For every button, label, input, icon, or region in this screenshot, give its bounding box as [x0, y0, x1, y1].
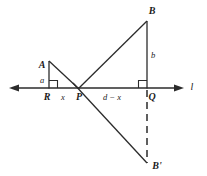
- triangle-BQP: [79, 21, 148, 89]
- axis-line-l-group: [9, 84, 184, 91]
- label-line-l: l: [191, 82, 194, 92]
- label-point-P: P: [76, 92, 82, 102]
- left-arrowhead-icon: [9, 84, 19, 91]
- label-point-B-prime: B': [152, 161, 161, 171]
- label-point-B: B: [149, 6, 156, 16]
- label-point-Q: Q: [148, 92, 155, 102]
- right-angle-at-Q-icon: [139, 81, 148, 89]
- label-segment-b: b: [151, 51, 155, 60]
- label-point-R: R: [44, 92, 51, 102]
- right-arrowhead-icon: [174, 84, 184, 91]
- label-segment-x: x: [61, 93, 65, 102]
- label-point-A: A: [39, 60, 46, 70]
- label-segment-d-minus-x: d − x: [103, 93, 121, 102]
- right-angle-at-R-icon: [49, 81, 58, 89]
- label-segment-a: a: [40, 76, 44, 85]
- diagram-canvas: A R P Q B B' a x d − x b l: [0, 0, 207, 176]
- reflection-diagram-svg: [0, 0, 207, 176]
- segment-PB: [79, 21, 148, 89]
